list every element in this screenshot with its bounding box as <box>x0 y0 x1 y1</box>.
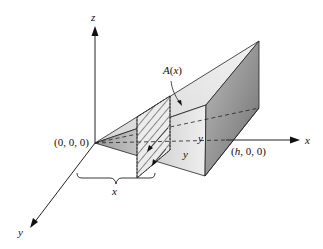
cross-section-y-top: y <box>197 132 203 144</box>
origin-label: (0, 0, 0) <box>54 136 89 149</box>
area-label: A(x) <box>162 64 182 77</box>
x-brace <box>77 173 155 184</box>
solid-diagram: z x y (0, 0, 0) (h, 0, 0) A(x) y y x <box>0 0 323 249</box>
cross-section-hatch <box>137 96 170 178</box>
z-axis-label: z <box>90 11 96 23</box>
y-axis-label: y <box>17 226 23 238</box>
y-axis <box>30 143 95 228</box>
z-axis <box>92 26 99 143</box>
brace-x-label: x <box>111 185 117 197</box>
cross-section-y-bottom: y <box>182 148 188 160</box>
h-point-label: (h, 0, 0) <box>231 145 266 158</box>
cross-section <box>137 96 170 178</box>
x-axis-label: x <box>304 134 310 146</box>
